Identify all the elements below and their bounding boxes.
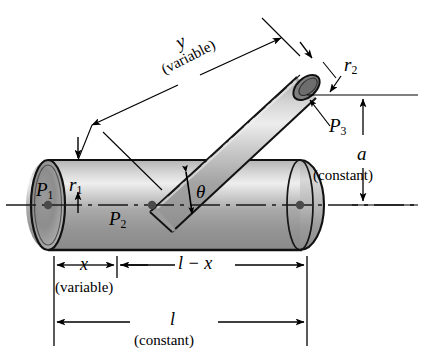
label-p1-text: P <box>36 179 48 200</box>
label-p3: P3 <box>329 116 347 138</box>
label-l-note: (constant) <box>134 333 194 348</box>
label-x-text: x <box>80 254 88 274</box>
branched-pipe-figure: P1 r1 P2 θ r2 P3 y (variable) a (constan… <box>0 0 424 363</box>
label-p2: P2 <box>109 209 127 231</box>
label-theta-text: θ <box>196 181 205 202</box>
label-p2-text: P <box>109 208 121 229</box>
label-theta: θ <box>196 182 205 201</box>
label-a: a <box>357 144 367 163</box>
label-x: x <box>80 255 88 273</box>
label-p3-subscript: 3 <box>341 125 347 138</box>
label-a-text: a <box>357 143 367 164</box>
label-r2: r2 <box>344 55 357 77</box>
label-p3-text: P <box>329 115 341 136</box>
label-p2-subscript: 2 <box>121 218 127 231</box>
label-x-note: (variable) <box>55 280 113 295</box>
leader-p3 <box>310 100 330 126</box>
label-a-note: (constant) <box>313 168 373 183</box>
label-l-minus-x: l − x <box>178 254 212 272</box>
label-r1: r1 <box>69 175 82 197</box>
label-r1-subscript: 1 <box>76 184 82 197</box>
label-p1: P1 <box>36 180 54 202</box>
label-r2-subscript: 2 <box>351 64 357 77</box>
label-l: l <box>170 310 175 328</box>
label-p1-subscript: 1 <box>48 189 54 202</box>
